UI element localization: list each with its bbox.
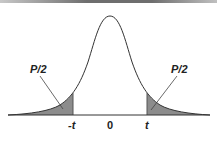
left-tail-label: P/2 bbox=[30, 63, 47, 75]
right-leader-line bbox=[151, 76, 177, 110]
left-leader-line bbox=[40, 76, 63, 109]
tick-zero: 0 bbox=[107, 119, 113, 131]
right-tail-label: P/2 bbox=[171, 63, 188, 75]
tick-neg-t: -t bbox=[68, 119, 75, 131]
tick-t: t bbox=[145, 119, 149, 131]
